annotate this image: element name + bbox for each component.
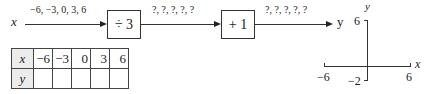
table-header-y: y [12,69,34,89]
output-variable: y [337,14,344,30]
intermediate-values: ?, ?, ?, ?, ? [152,4,194,15]
x-max-tick [410,63,411,67]
arrow-line-3 [254,24,329,25]
table-cell-input[interactable] [72,69,91,89]
y-min-tick [364,80,368,81]
table-cell: 6 [110,49,129,69]
table-cell-input[interactable] [91,69,110,89]
y-max-label: 6 [354,14,360,29]
arrowhead-2-icon [214,21,221,27]
y-axis-label: y [365,0,370,12]
step2-label: + 1 [229,17,247,33]
y-axis [367,20,368,81]
y-min-label: −2 [348,74,361,89]
input-variable: x [11,14,17,30]
arrow-line-1 [25,24,103,25]
x-max-label: 6 [406,70,412,85]
add-1-box: + 1 [221,10,255,39]
step1-label: ÷ 3 [115,17,133,33]
divide-by-3-box: ÷ 3 [107,10,141,39]
x-min-tick [324,63,325,67]
arrow-line-2 [140,24,217,25]
table-cell-input[interactable] [110,69,129,89]
values-table: x −6 −3 0 3 6 y [11,48,129,89]
table-row-x: x −6 −3 0 3 6 [12,49,129,69]
arrowhead-3-icon [326,21,333,27]
output-values: ?, ?, ?, ?, ? [265,4,307,15]
table-cell: −6 [34,49,53,69]
y-max-tick [364,20,368,21]
table-header-x: x [12,49,34,69]
table-cell-input[interactable] [53,69,72,89]
table-cell: −3 [53,49,72,69]
x-axis [324,66,411,67]
table-cell: 0 [72,49,91,69]
input-values: −6, −3, 0, 3, 6 [30,4,86,15]
x-axis-label: x [415,57,420,72]
table-row-y: y [12,69,129,89]
table-cell: 3 [91,49,110,69]
x-min-label: −6 [317,70,330,85]
table-cell-input[interactable] [34,69,53,89]
arrowhead-1-icon [100,21,107,27]
